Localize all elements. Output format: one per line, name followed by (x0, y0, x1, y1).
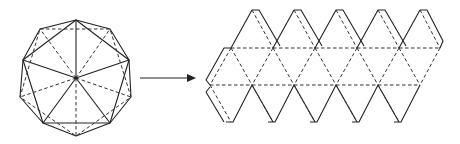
net-bottom-row (210, 85, 420, 122)
icosahedron-net (206, 10, 443, 122)
icosahedron-net-diagram (0, 0, 460, 144)
arrow-right-icon (140, 74, 196, 82)
icosahedron-figure (20, 20, 131, 136)
net-top-row (231, 10, 443, 48)
